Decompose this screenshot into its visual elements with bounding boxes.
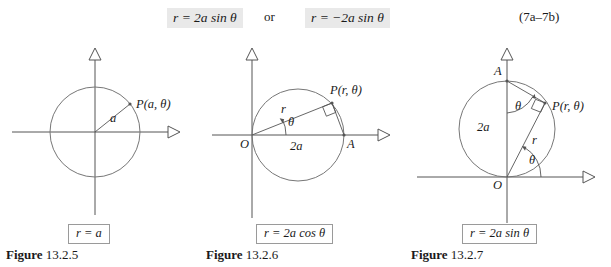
- caption-number: 13.2.7: [451, 247, 484, 262]
- figure-caption: Figure 13.2.6: [206, 248, 278, 261]
- formula-box: r = a: [68, 224, 110, 244]
- x-axis-arrowhead: [378, 129, 390, 141]
- point-label-p: P(r, θ): [330, 84, 362, 97]
- figure-13-2-7: A O 2a r θ θ P(r, θ) r = 2a sin θ Figure…: [405, 38, 611, 267]
- point-p-marker: [543, 101, 546, 104]
- point-p-marker: [330, 101, 333, 104]
- equation-connector: or: [264, 10, 275, 25]
- point-label-a: A: [347, 138, 355, 151]
- angle-label-bottom: θ: [529, 154, 535, 167]
- y-axis-arrowhead: [89, 48, 101, 60]
- caption-prefix: Figure: [206, 247, 243, 262]
- right-angle-marker: [531, 99, 545, 112]
- figure-caption: Figure 13.2.5: [6, 248, 78, 261]
- point-a-marker: [505, 79, 508, 82]
- figure-caption: Figure 13.2.7: [411, 248, 483, 261]
- caption-number: 13.2.6: [246, 247, 279, 262]
- caption-prefix: Figure: [6, 247, 43, 262]
- radius-label: a: [110, 112, 116, 125]
- x-axis-arrowhead: [168, 126, 180, 138]
- angle-arrowhead-bottom: [522, 146, 527, 151]
- x-axis-arrowhead: [583, 171, 595, 183]
- caption-number: 13.2.5: [46, 247, 79, 262]
- segment-ap: [507, 81, 545, 103]
- point-p-marker: [128, 102, 131, 105]
- radius-label: r: [532, 134, 537, 147]
- formula-box: r = 2a cos θ: [256, 224, 333, 244]
- angle-label: θ: [288, 116, 294, 129]
- point-label-p: P(a, θ): [136, 98, 171, 111]
- equation-number: (7a–7b): [519, 10, 559, 23]
- y-axis-arrowhead: [501, 48, 513, 60]
- figure-13-2-6: O A 2a r θ P(r, θ) r = 2a cos θ Figure 1…: [200, 38, 405, 267]
- equation-right: r = −2a sin θ: [305, 8, 390, 28]
- diameter-label: 2a: [290, 140, 303, 153]
- diameter-label: 2a: [477, 121, 490, 134]
- point-label-a: A: [494, 65, 502, 78]
- angle-label-top: θ: [515, 100, 521, 113]
- equation-left: r = 2a sin θ: [167, 8, 243, 28]
- right-angle-marker: [323, 103, 336, 116]
- origin-label: O: [493, 179, 502, 192]
- point-a-marker: [342, 133, 345, 136]
- formula-box: r = 2a sin θ: [462, 224, 537, 244]
- y-axis-arrowhead: [246, 48, 258, 60]
- caption-prefix: Figure: [411, 247, 448, 262]
- equation-row: r = 2a sin θ or r = −2a sin θ (7a–7b): [0, 0, 611, 38]
- radius-label: r: [281, 103, 286, 116]
- origin-label: O: [240, 138, 249, 151]
- point-label-p: P(r, θ): [552, 100, 584, 113]
- figure-13-2-5: a P(a, θ) r = a Figure 13.2.5: [0, 38, 200, 267]
